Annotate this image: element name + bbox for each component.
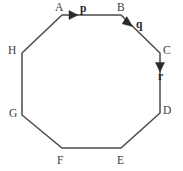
vertex-label-e: E [117,155,124,167]
vertex-label-g: G [9,108,17,120]
vector-p-arrowhead [69,11,78,20]
vertex-label-c: C [163,45,171,57]
vector-label-q: q [136,19,142,31]
vertex-label-b: B [117,2,125,14]
vertex-label-d: D [163,105,171,117]
octagon-outline [22,15,160,148]
vector-label-p: p [80,3,86,15]
octagon-diagram-canvas [0,0,183,171]
vertex-label-f: F [57,155,63,167]
octagon-vector-figure: A B C D E F G H p q r [0,0,183,171]
vertex-label-h: H [8,45,16,57]
vertex-label-a: A [55,2,63,14]
vector-label-r: r [158,71,163,83]
